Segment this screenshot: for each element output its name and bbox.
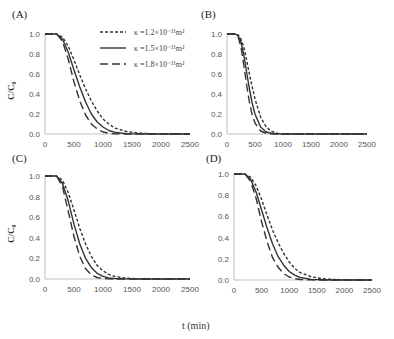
y-tick-label: 0.8: [218, 191, 230, 200]
y-tick-label: 1.0: [218, 170, 230, 179]
x-tick-label: 2000: [336, 286, 354, 295]
y-tick-label: 0.0: [218, 276, 230, 285]
y-tick-label: 0.6: [218, 212, 230, 221]
x-tick-label: 500: [255, 286, 269, 295]
y-tick-label: 0.2: [218, 255, 230, 264]
series-solid: [234, 174, 372, 280]
x-tick-label: 1500: [308, 286, 326, 295]
x-tick-label: 1000: [280, 286, 298, 295]
plot-d: 0.00.20.40.60.81.005001000150020002500: [0, 0, 394, 339]
x-axis-label: t (min): [182, 320, 210, 331]
panel-d: (D) 0.00.20.40.60.81.0050010001500200025…: [0, 0, 394, 339]
x-tick-label: 2500: [363, 286, 381, 295]
x-tick-label: 0: [232, 286, 237, 295]
y-tick-label: 0.4: [218, 234, 230, 243]
